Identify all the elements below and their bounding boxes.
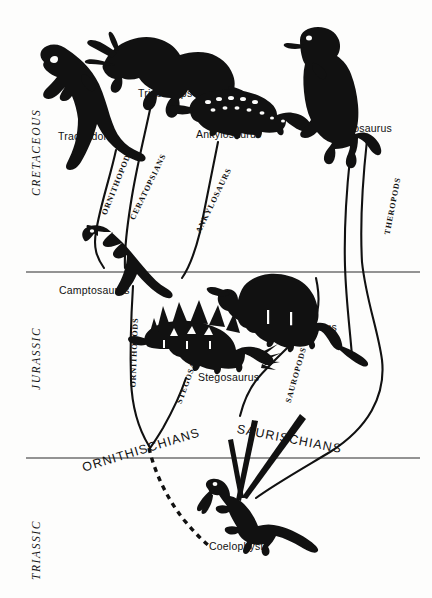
taxon-label-coelophysis: Coelophysis xyxy=(209,540,268,552)
period-label-triassic: TRIASSIC xyxy=(30,520,42,580)
taxon-label-trachodon: Trachodon xyxy=(58,130,110,142)
period-label-cretaceous: CRETACEOUS xyxy=(30,109,42,196)
taxon-label-stegosaurus: Stegosaurus xyxy=(198,371,259,383)
taxon-label-tyrannosaurus: Tyrannosaurus xyxy=(320,122,392,134)
period-label-jurassic: JURASSIC xyxy=(30,327,42,390)
taxon-label-ankylosaurus: Ankylosaurus xyxy=(196,128,261,140)
taxon-label-brontosaurus: Brontosaurus xyxy=(272,321,337,333)
taxon-label-camptosaurus: Camptosaurus xyxy=(59,284,130,296)
taxon-label-triceratops: Triceratops xyxy=(138,87,192,99)
lineage-theropods-inner xyxy=(345,158,352,356)
figure-canvas: CRETACEOUS JURASSIC TRIASSIC Trachodon T… xyxy=(0,0,432,598)
cladogram-svg xyxy=(0,0,432,598)
lineage-ornithischians-dashed xyxy=(149,448,208,545)
